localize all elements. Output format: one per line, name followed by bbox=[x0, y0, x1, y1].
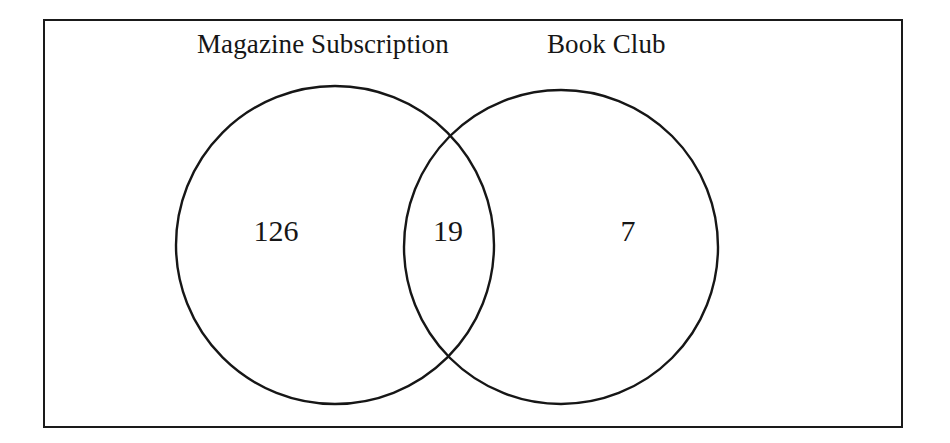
set-label-book-club: Book Club bbox=[547, 31, 666, 58]
count-magazine-only: 126 bbox=[216, 216, 336, 246]
venn-diagram-figure: Magazine Subscription Book Club 126 19 7 bbox=[0, 0, 950, 443]
count-book-club-only: 7 bbox=[578, 216, 678, 246]
set-label-magazine-subscription: Magazine Subscription bbox=[197, 31, 449, 58]
count-intersection: 19 bbox=[398, 216, 498, 246]
